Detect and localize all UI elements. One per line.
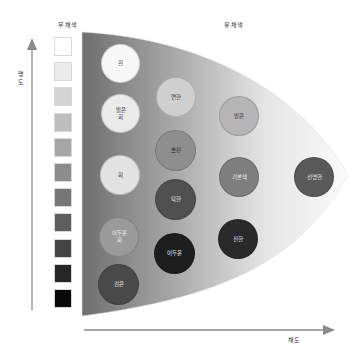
tone-label: 밝은회 (116, 107, 126, 121)
tone-label: 선명한 (307, 174, 322, 181)
saturation-axis-arrow-icon (323, 325, 335, 335)
tone-circle-dark-gray: 어두운회 (99, 217, 139, 257)
gray-swatch (54, 213, 72, 232)
tone-circle-muddy: 탁한 (155, 179, 196, 220)
gray-swatch (54, 163, 72, 182)
gray-swatch (54, 264, 72, 283)
tone-circle-light-gray: 밝은회 (101, 94, 140, 133)
gray-swatch (54, 289, 72, 308)
tone-label: 회 (118, 172, 123, 179)
tone-circle-basic: 기본색 (219, 157, 259, 197)
tone-label: 흰 (118, 60, 123, 67)
brightness-axis-label: 명 도 (17, 70, 25, 86)
tone-label: 밝은 (234, 113, 244, 120)
gray-swatch (54, 37, 72, 56)
brightness-label-char-2: 도 (17, 78, 25, 86)
tone-circle-dull: 흐린 (155, 130, 196, 171)
tone-label: 어두운회 (112, 230, 127, 244)
tone-label: 검은 (114, 281, 124, 288)
tone-circle-black: 검은 (98, 264, 139, 305)
tone-circle-light: 밝은 (219, 96, 259, 136)
tone-circle-dark: 어두운 (154, 233, 195, 274)
gray-swatch (54, 138, 72, 157)
tone-circle-gray: 회 (100, 155, 140, 195)
gray-swatch (54, 62, 72, 81)
tone-circle-vivid: 선명한 (294, 157, 334, 197)
tone-label: 탁한 (171, 196, 181, 203)
tone-label: 연한 (171, 94, 181, 101)
tone-label: 진한 (233, 236, 243, 243)
brightness-label-char-1: 명 (17, 70, 25, 78)
brightness-axis-arrow-icon (27, 38, 37, 50)
gray-swatch (54, 239, 72, 258)
saturation-axis-label: 채도 (288, 336, 300, 344)
tone-circle-deep: 진한 (218, 219, 258, 259)
gray-swatch (54, 188, 72, 207)
achromatic-header: 무채색 (58, 20, 78, 29)
tone-circle-white: 흰 (101, 44, 140, 83)
tone-label: 어두운 (167, 250, 182, 257)
tone-circle-pale: 연한 (156, 77, 196, 117)
gray-swatch (54, 113, 72, 132)
tone-label: 기본색 (232, 174, 247, 181)
tone-label: 흐린 (171, 147, 181, 154)
chromatic-header: 유채색 (224, 20, 244, 29)
gray-swatch (54, 87, 72, 106)
